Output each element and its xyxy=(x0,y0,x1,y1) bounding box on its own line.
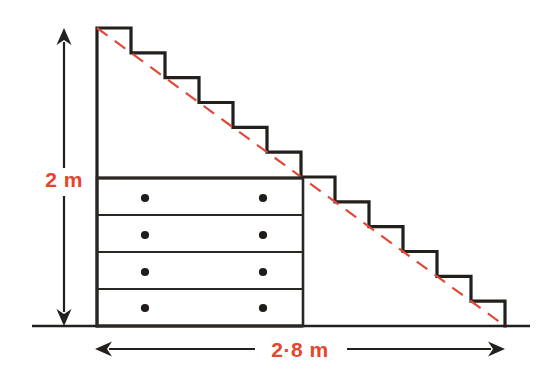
drawer-handle-dot xyxy=(259,194,267,202)
diagram-canvas: 2 m 2·8 m xyxy=(0,0,550,388)
drawer-handle-dot xyxy=(141,194,149,202)
height-dimension-label: 2 m xyxy=(45,168,83,191)
drawer-handle-dot xyxy=(259,268,267,276)
width-dimension-label: 2·8 m xyxy=(271,338,328,361)
drawer-handle-dot xyxy=(259,231,267,239)
drawer-handle-dot xyxy=(259,304,267,312)
drawer-handle-dot xyxy=(141,304,149,312)
staircase-diagram: 2 m 2·8 m xyxy=(0,0,550,388)
drawer-unit xyxy=(97,178,303,326)
drawer-handle-dot xyxy=(141,268,149,276)
drawer-handle-dot xyxy=(141,231,149,239)
drawer-dividers xyxy=(97,178,303,326)
